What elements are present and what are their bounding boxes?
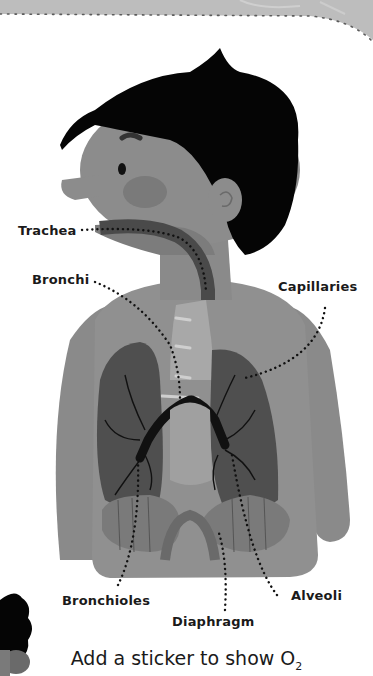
- label-trachea: Trachea: [18, 223, 77, 238]
- caption-text: Add a sticker to show O: [71, 647, 296, 669]
- label-bronchioles: Bronchioles: [62, 593, 150, 608]
- label-bronchi: Bronchi: [32, 272, 89, 287]
- sticker-instruction: Add a sticker to show O2: [0, 647, 373, 673]
- label-capillaries: Capillaries: [278, 279, 357, 294]
- label-diaphragm: Diaphragm: [172, 614, 254, 629]
- label-alveoli: Alveoli: [291, 588, 342, 603]
- caption-subscript: 2: [295, 660, 302, 673]
- respiratory-diagram: [0, 0, 373, 676]
